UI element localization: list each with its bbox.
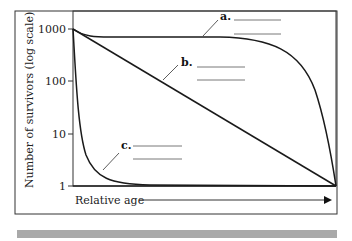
tick-label-100: 100 [45, 75, 66, 88]
annotation-c: c. [103, 139, 182, 170]
annotation-b: b. [163, 56, 245, 80]
annotation-a: a. [203, 10, 281, 36]
tick-label-10: 10 [52, 128, 66, 141]
tick-label-1: 1 [59, 180, 66, 193]
arrow-right-icon [324, 196, 332, 204]
curve-b [73, 29, 336, 186]
survivorship-chart: 1000 100 10 1 Number of survivors (log s… [0, 0, 352, 241]
curve-label-c: c. [121, 139, 132, 152]
curve-label-a: a. [220, 10, 231, 23]
y-axis-title: Number of survivors (log scale) [23, 12, 36, 188]
curve-label-b: b. [181, 56, 193, 69]
footer-bar [17, 230, 337, 238]
y-ticks: 1000 100 10 1 [38, 23, 73, 193]
tick-label-1000: 1000 [38, 23, 66, 36]
x-axis-title: Relative age [75, 194, 144, 207]
